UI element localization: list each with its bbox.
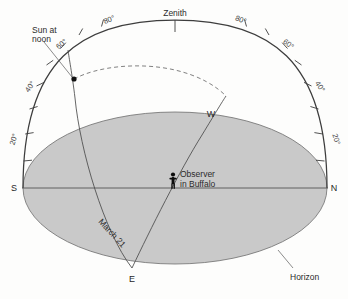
celestial-path-dashed-arc xyxy=(74,66,226,96)
tick-label-80-south: 80° xyxy=(102,13,116,25)
tick-10-south xyxy=(24,160,33,161)
observer-label-line1: Observer xyxy=(180,169,215,179)
sun-at-noon-label-line2: noon xyxy=(32,34,51,44)
tick-20-south xyxy=(25,133,33,134)
sun-at-noon-marker xyxy=(71,76,76,81)
tick-20-north xyxy=(314,133,322,134)
tick-70-south xyxy=(79,29,83,36)
cardinal-south-label: S xyxy=(11,183,17,193)
tick-label-20-south: 20° xyxy=(8,132,20,146)
zenith-label: Zenith xyxy=(163,8,187,18)
celestial-sphere-diagram: 20° 40° 60° 80° 80° 60° 40° 20° Zenith S… xyxy=(0,0,348,299)
horizon-leader-line xyxy=(278,250,293,268)
tick-label-60-south: 60° xyxy=(54,37,68,51)
cardinal-north-label: N xyxy=(331,183,338,193)
tick-50-north xyxy=(295,60,302,65)
tick-label-40-north: 40° xyxy=(313,79,327,93)
tick-70-north xyxy=(265,29,269,36)
horizon-label: Horizon xyxy=(290,272,320,282)
tick-label-20-north: 20° xyxy=(330,132,342,146)
cardinal-west-label: W xyxy=(207,109,216,119)
tick-30-north xyxy=(310,107,318,110)
tick-50-south xyxy=(47,60,54,65)
tick-label-40-south: 40° xyxy=(23,79,37,93)
tick-label-60-north: 60° xyxy=(281,37,295,51)
observer-label-line2: in Buffalo xyxy=(180,179,216,189)
cardinal-east-label: E xyxy=(129,274,135,284)
diagram-canvas: 20° 40° 60° 80° 80° 60° 40° 20° Zenith S… xyxy=(0,0,348,299)
